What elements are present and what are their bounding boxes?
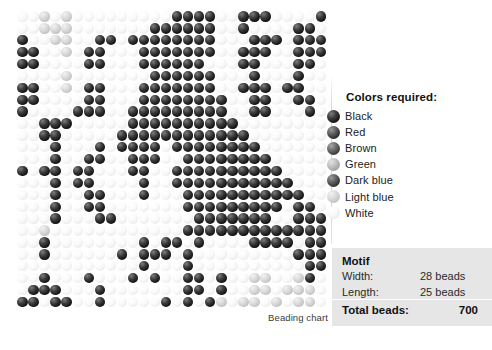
bead	[105, 296, 116, 308]
bead	[28, 106, 39, 118]
bead	[105, 94, 116, 106]
bead	[238, 201, 249, 213]
bead	[105, 166, 116, 178]
bead	[116, 261, 127, 273]
bead	[304, 273, 315, 285]
bead	[293, 273, 304, 285]
bead	[172, 213, 183, 225]
bead	[28, 296, 39, 308]
bead	[238, 94, 249, 106]
bead	[139, 213, 150, 225]
legend-item-green: Green	[340, 156, 490, 172]
bead	[94, 94, 105, 106]
bead	[61, 225, 72, 237]
bead	[105, 154, 116, 166]
bead	[304, 189, 315, 201]
bead	[315, 118, 326, 130]
bead	[127, 296, 138, 308]
bead-swatch-icon	[327, 158, 340, 171]
bead	[72, 154, 83, 166]
bead	[216, 82, 227, 94]
bead	[172, 201, 183, 213]
legend-item-label: White	[345, 207, 374, 219]
bead	[282, 142, 293, 154]
bead	[282, 23, 293, 35]
bead	[116, 106, 127, 118]
bead	[116, 273, 127, 285]
bead	[227, 225, 238, 237]
bead	[72, 249, 83, 261]
bead	[150, 142, 161, 154]
bead	[50, 225, 61, 237]
bead	[216, 225, 227, 237]
bead	[105, 47, 116, 59]
bead	[216, 166, 227, 178]
bead	[50, 249, 61, 261]
bead	[249, 225, 260, 237]
bead	[94, 237, 105, 249]
bead	[116, 237, 127, 249]
bead	[139, 177, 150, 189]
bead	[293, 35, 304, 47]
bead	[293, 11, 304, 23]
bead	[282, 237, 293, 249]
bead	[216, 189, 227, 201]
bead	[61, 35, 72, 47]
bead	[227, 59, 238, 71]
bead	[227, 94, 238, 106]
bead	[39, 70, 50, 82]
bead	[172, 94, 183, 106]
bead	[17, 11, 28, 23]
bead	[205, 70, 216, 82]
bead	[72, 142, 83, 154]
bead	[249, 237, 260, 249]
bead	[293, 47, 304, 59]
bead	[304, 47, 315, 59]
bead	[116, 201, 127, 213]
bead	[183, 249, 194, 261]
bead	[139, 201, 150, 213]
bead	[282, 47, 293, 59]
bead	[249, 177, 260, 189]
bead	[216, 177, 227, 189]
legend-title: Colors required:	[346, 91, 490, 103]
bead	[271, 237, 282, 249]
bead	[105, 177, 116, 189]
bead	[150, 47, 161, 59]
bead	[238, 23, 249, 35]
bead	[205, 284, 216, 296]
bead	[260, 249, 271, 261]
bead	[249, 47, 260, 59]
bead	[50, 59, 61, 71]
bead	[238, 47, 249, 59]
bead	[139, 11, 150, 23]
legend-item-label: Green	[345, 158, 376, 170]
bead	[139, 296, 150, 308]
bead	[50, 106, 61, 118]
bead	[161, 130, 172, 142]
bead	[150, 261, 161, 273]
bead	[183, 82, 194, 94]
bead	[83, 237, 94, 249]
bead	[61, 142, 72, 154]
bead	[116, 23, 127, 35]
bead	[260, 189, 271, 201]
bead	[249, 11, 260, 23]
bead	[227, 70, 238, 82]
bead	[304, 11, 315, 23]
bead	[238, 70, 249, 82]
bead	[28, 213, 39, 225]
bead	[282, 154, 293, 166]
bead	[116, 154, 127, 166]
bead	[127, 213, 138, 225]
bead	[83, 154, 94, 166]
bead	[260, 225, 271, 237]
bead	[72, 94, 83, 106]
beading-chart-page: Beading chart Colors required: BlackRedB…	[0, 0, 492, 350]
bead	[150, 11, 161, 23]
bead	[17, 35, 28, 47]
bead	[105, 59, 116, 71]
legend-item-white: White	[340, 205, 490, 221]
bead	[271, 47, 282, 59]
bead	[17, 237, 28, 249]
